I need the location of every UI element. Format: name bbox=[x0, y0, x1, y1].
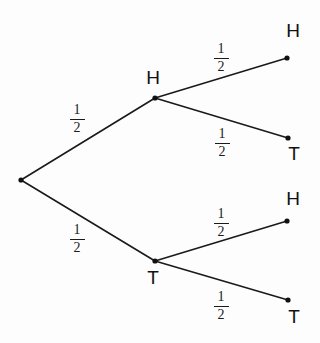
fraction-numerator: 1 bbox=[206, 42, 236, 57]
probability-tree-diagram: H T H T H T 1 2 1 2 1 2 1 2 1 2 1 2 bbox=[0, 0, 320, 343]
tree-node-ht bbox=[285, 135, 290, 140]
tree-node-t1 bbox=[152, 258, 157, 263]
fraction-numerator: 1 bbox=[206, 207, 236, 222]
tree-node-hh bbox=[284, 55, 289, 60]
fraction-numerator: 1 bbox=[62, 103, 92, 118]
probability-label-t-th: 1 2 bbox=[206, 207, 236, 239]
probability-label-h-hh: 1 2 bbox=[206, 42, 236, 74]
fraction-numerator: 1 bbox=[206, 290, 236, 305]
tree-node-h1 bbox=[152, 95, 157, 100]
probability-label-t-tt: 1 2 bbox=[206, 290, 236, 322]
edges-group bbox=[21, 58, 288, 300]
fraction-denominator: 2 bbox=[206, 225, 236, 240]
probability-label-root-t: 1 2 bbox=[62, 223, 92, 255]
tree-node-root bbox=[18, 177, 23, 182]
node-label-hh: H bbox=[281, 21, 305, 40]
fraction-numerator: 1 bbox=[207, 127, 237, 142]
fraction-denominator: 2 bbox=[206, 60, 236, 75]
fraction-denominator: 2 bbox=[62, 121, 92, 136]
probability-label-root-h: 1 2 bbox=[62, 103, 92, 135]
fraction-denominator: 2 bbox=[62, 241, 92, 256]
nodes-group bbox=[18, 55, 290, 302]
tree-edges-canvas bbox=[0, 0, 320, 343]
tree-node-th bbox=[284, 218, 289, 223]
fraction-denominator: 2 bbox=[207, 145, 237, 160]
node-label-th: H bbox=[281, 189, 305, 208]
node-label-h1: H bbox=[141, 68, 165, 87]
tree-node-tt bbox=[285, 297, 290, 302]
node-label-tt: T bbox=[282, 307, 306, 326]
probability-label-h-ht: 1 2 bbox=[207, 127, 237, 159]
fraction-numerator: 1 bbox=[62, 223, 92, 238]
fraction-denominator: 2 bbox=[206, 308, 236, 323]
node-label-t1: T bbox=[141, 268, 165, 287]
node-label-ht: T bbox=[282, 144, 306, 163]
